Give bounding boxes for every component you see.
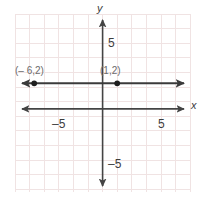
plot-point-a — [31, 80, 37, 86]
x-axis-tick-5: 5 — [158, 118, 165, 130]
y-axis-tick-5: 5 — [108, 37, 115, 49]
x-axis-tick-negative-5: –5 — [52, 118, 65, 130]
y-axis-label: y — [97, 3, 103, 14]
point-label-b: (1,2) — [100, 66, 121, 76]
y-axis-tick-negative-5: –5 — [108, 158, 121, 170]
x-axis-label: x — [191, 100, 197, 111]
graph-canvas — [0, 0, 204, 205]
plot-point-b — [114, 80, 120, 86]
coordinate-plane-graph: y x 5 –5 –5 5 (– 6,2) (1,2) — [0, 0, 204, 205]
point-label-a: (– 6,2) — [15, 66, 44, 76]
